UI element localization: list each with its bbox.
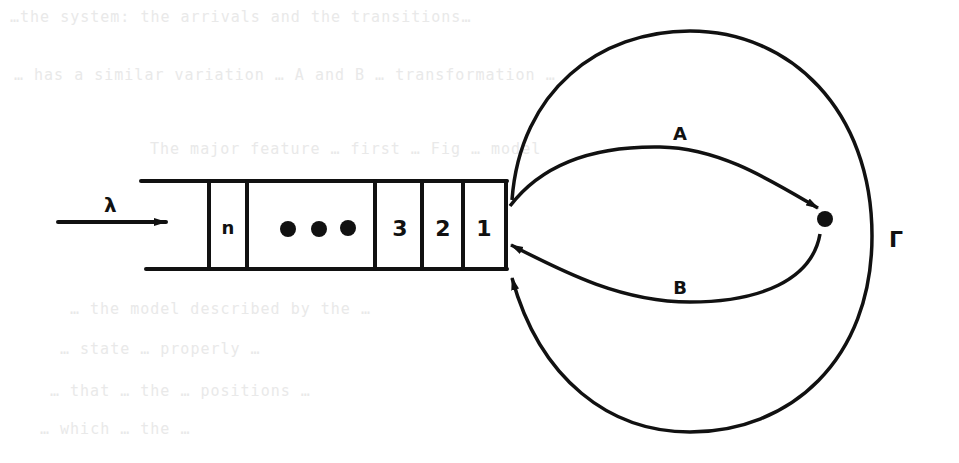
path-a-label: A [673, 123, 687, 144]
arrival-rate-label: λ [104, 193, 117, 217]
path-b-arrow [511, 234, 820, 302]
queue-cell-2: 2 [435, 216, 450, 241]
server-label-gamma: Γ [889, 227, 903, 252]
server-node [817, 211, 833, 227]
outer-loop-circle [512, 31, 872, 432]
queue-diagram: λ n 3 2 1 A B Γ [0, 0, 959, 463]
queue-cell-n: n [222, 217, 235, 238]
path-b-label: B [673, 277, 687, 298]
queue-cell-1: 1 [476, 216, 491, 241]
path-a-arrow [510, 147, 818, 208]
queue-cell-3: 3 [392, 216, 407, 241]
ellipsis-dots [280, 220, 356, 237]
